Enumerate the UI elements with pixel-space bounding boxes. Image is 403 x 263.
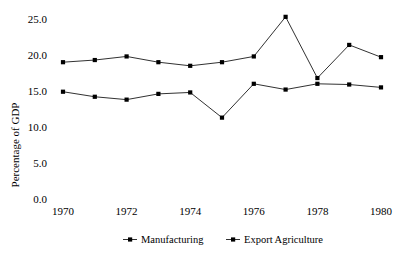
data-point-marker	[188, 64, 192, 68]
y-axis-tick-labels: 0.05.010.015.020.025.0	[28, 13, 48, 205]
data-point-marker	[284, 87, 288, 91]
y-axis-title: Percentage of GDP	[9, 103, 21, 188]
x-tick-label: 1976	[243, 205, 266, 217]
data-point-marker	[156, 60, 160, 64]
data-point-marker	[347, 43, 351, 47]
legend-marker-swatch	[128, 237, 132, 241]
x-tick-label: 1974	[179, 205, 202, 217]
data-point-marker	[252, 82, 256, 86]
chart-legend: ManufacturingExport Agriculture	[123, 234, 323, 245]
x-axis-tick-labels: 197019721974197619781980	[52, 205, 393, 217]
data-point-marker	[347, 82, 351, 86]
series-1	[61, 15, 383, 80]
legend-label: Manufacturing	[141, 234, 204, 245]
data-point-marker	[284, 15, 288, 19]
y-tick-label: 5.0	[33, 157, 47, 169]
series-2	[61, 82, 383, 120]
legend-item-2: Export Agriculture	[226, 234, 323, 245]
series-line	[63, 84, 381, 118]
y-tick-label: 0.0	[33, 193, 47, 205]
data-point-marker	[315, 76, 319, 80]
data-point-marker	[125, 98, 129, 102]
legend-marker-swatch	[231, 237, 235, 241]
x-tick-label: 1970	[52, 205, 75, 217]
data-point-marker	[93, 58, 97, 62]
data-point-marker	[379, 55, 383, 59]
data-point-marker	[315, 82, 319, 86]
x-tick-label: 1978	[306, 205, 329, 217]
series-layer	[61, 15, 383, 120]
x-tick-label: 1980	[370, 205, 393, 217]
x-tick-label: 1972	[116, 205, 138, 217]
data-point-marker	[220, 116, 224, 120]
data-point-marker	[61, 90, 65, 94]
data-point-marker	[188, 90, 192, 94]
chart-svg: 0.05.010.015.020.025.0 19701972197419761…	[0, 0, 403, 263]
legend-label: Export Agriculture	[244, 234, 323, 245]
data-point-marker	[125, 54, 129, 58]
y-tick-label: 10.0	[28, 121, 48, 133]
data-point-marker	[156, 92, 160, 96]
data-point-marker	[61, 60, 65, 64]
data-point-marker	[252, 54, 256, 58]
data-point-marker	[379, 85, 383, 89]
series-line	[63, 17, 381, 78]
y-tick-label: 25.0	[28, 13, 48, 25]
chart-container: 0.05.010.015.020.025.0 19701972197419761…	[0, 0, 403, 263]
data-point-marker	[93, 95, 97, 99]
data-point-marker	[220, 60, 224, 64]
y-tick-label: 15.0	[28, 85, 48, 97]
y-tick-label: 20.0	[28, 49, 48, 61]
legend-item-1: Manufacturing	[123, 234, 204, 245]
